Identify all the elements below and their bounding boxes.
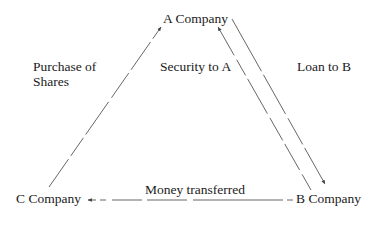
node-a-company: A Company [163, 11, 228, 26]
label-purchase-of-shares-line1: Purchase of [33, 59, 96, 74]
label-money-transferred: Money transferred [145, 182, 245, 197]
label-loan-to-b: Loan to B [297, 59, 351, 74]
label-security-to-a: Security to A [160, 59, 231, 74]
arrow-a-to-b [232, 19, 325, 184]
node-b-company: B Company [296, 191, 361, 206]
node-c-company: C Company [16, 191, 81, 206]
arrow-c-to-a [49, 27, 161, 187]
label-purchase-of-shares-line2: Shares [33, 74, 69, 89]
arrow-b-to-a [218, 27, 311, 190]
